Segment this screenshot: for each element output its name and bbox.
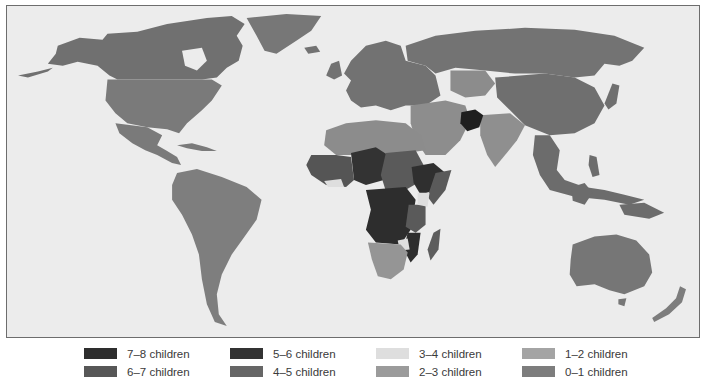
legend-label: 7–8 children	[127, 348, 190, 360]
region-southern-africa	[368, 243, 408, 280]
region-canada-alaska	[48, 16, 245, 80]
region-tasmania	[618, 298, 626, 306]
region-central-asia	[450, 71, 495, 98]
legend-swatch	[230, 366, 263, 377]
region-iceland	[304, 46, 320, 54]
legend-label: 4–5 children	[273, 366, 336, 378]
region-russia	[406, 28, 645, 78]
legend-item: 2–3 children	[376, 365, 482, 378]
legend-item: 4–5 children	[230, 365, 336, 378]
world-map-svg	[7, 6, 699, 337]
legend-swatch	[522, 366, 555, 377]
legend-swatch	[84, 366, 117, 377]
legend-label: 5–6 children	[273, 348, 336, 360]
region-caribbean	[177, 143, 217, 151]
legend-label: 0–1 children	[565, 366, 628, 378]
legend-item: 6–7 children	[84, 365, 190, 378]
legend-label: 1–2 children	[565, 348, 628, 360]
region-japan	[604, 84, 619, 110]
region-madagascar	[428, 229, 441, 261]
legend: 7–8 children6–7 children5–6 children4–5 …	[84, 347, 704, 383]
legend-label: 3–4 children	[419, 348, 482, 360]
world-map	[6, 5, 700, 338]
legend-label: 6–7 children	[127, 366, 190, 378]
region-borneo	[572, 183, 593, 205]
legend-swatch	[376, 348, 409, 359]
region-philippines	[589, 155, 600, 177]
legend-item: 3–4 children	[376, 347, 482, 360]
legend-swatch	[230, 348, 263, 359]
region-uk	[326, 61, 342, 80]
legend-item: 5–6 children	[230, 347, 336, 360]
region-australia	[570, 235, 653, 295]
legend-label: 2–3 children	[419, 366, 482, 378]
region-india	[480, 113, 525, 167]
legend-swatch	[376, 366, 409, 377]
region-new-guinea	[619, 203, 664, 219]
legend-item: 0–1 children	[522, 365, 628, 378]
legend-item: 7–8 children	[84, 347, 190, 360]
region-new-zealand	[652, 286, 686, 322]
legend-item: 1–2 children	[522, 347, 628, 360]
legend-swatch	[522, 348, 555, 359]
region-south-america	[172, 169, 261, 326]
region-kenya	[418, 193, 430, 207]
region-aleutians	[18, 68, 53, 78]
legend-swatch	[84, 348, 117, 359]
